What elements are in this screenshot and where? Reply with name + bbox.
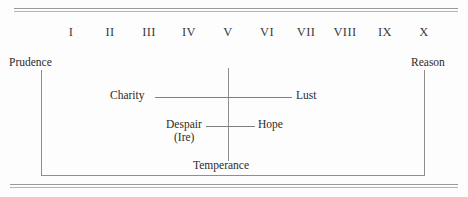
scale-diagram: I II III IV V VI VII VIII IX X Prudence … [0, 0, 468, 197]
numeral-10: X [419, 23, 428, 41]
bracket-left-stroke [41, 70, 42, 176]
endpoint-label-left: Prudence [9, 55, 52, 69]
bracket-right-stroke [424, 70, 425, 176]
pair-label-despair: Despair [166, 117, 202, 131]
numeral-7: VII [297, 23, 316, 41]
numeral-8: VIII [333, 23, 356, 41]
pair-label-despair-alt: (Ire) [174, 130, 194, 144]
degree-scale: I II III IV V VI VII VIII IX X [0, 23, 468, 43]
top-rule-lower [14, 11, 458, 12]
numeral-9: IX [378, 23, 392, 41]
endpoint-label-right: Reason [411, 55, 445, 69]
bottom-rule-lower [10, 187, 458, 188]
pair-label-lust: Lust [296, 88, 316, 102]
numeral-1: I [69, 23, 74, 41]
numeral-6: VI [260, 23, 274, 41]
bottom-rule-upper [10, 184, 458, 185]
center-label-temperance: Temperance [193, 158, 249, 172]
bracket-bottom-stroke [41, 175, 425, 176]
connector-despair-hope [206, 126, 255, 127]
center-axis-line [228, 68, 229, 161]
top-rule-upper [14, 8, 458, 9]
connector-charity-lust [155, 97, 292, 98]
numeral-4: IV [182, 23, 196, 41]
numeral-2: II [105, 23, 114, 41]
numeral-3: III [142, 23, 156, 41]
pair-label-hope: Hope [258, 117, 283, 131]
pair-label-charity: Charity [110, 88, 145, 102]
numeral-5: V [223, 23, 232, 41]
